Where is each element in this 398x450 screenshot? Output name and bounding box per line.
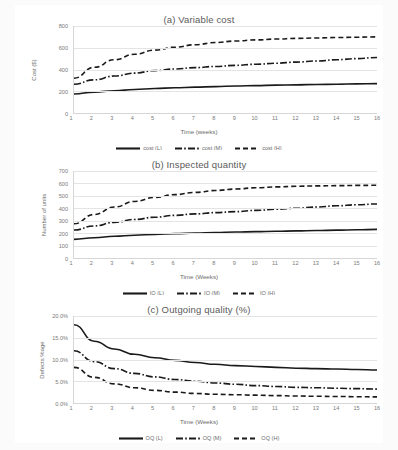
x-axis-title-c: Time (Weeks) (15, 417, 383, 426)
gridline (74, 381, 377, 382)
plot-canvas-c (73, 316, 377, 404)
x-tick-label: 7 (192, 405, 195, 411)
gridline (74, 91, 377, 92)
x-tick-label: 7 (192, 115, 195, 121)
x-tick-label: 7 (192, 260, 195, 266)
x-tick-label: 8 (212, 405, 215, 411)
x-tick-label: 6 (171, 405, 174, 411)
x-tick-label: 15 (353, 115, 359, 121)
x-tick-label: 3 (110, 115, 113, 121)
gridline (74, 246, 377, 247)
series-line (74, 58, 377, 85)
chart-title-a: (a) Variable cost (15, 5, 383, 26)
legend-c: OQ (L)OQ (M)OQ (H) (15, 432, 383, 444)
legend-swatch-dash-dot (176, 435, 200, 442)
x-axis-ticks-b: 12345678910111213141516 (71, 259, 377, 271)
gridline (74, 196, 377, 197)
y-tick-label: 15.0% (52, 335, 68, 341)
gridline (74, 316, 377, 317)
gridline (74, 221, 377, 222)
plot-area-c: Defects %age 0.0%5.0%10.0%15.0%20.0% (17, 316, 383, 404)
x-tick-label: 6 (171, 115, 174, 121)
x-tick-label: 9 (233, 405, 236, 411)
gridline (74, 338, 377, 339)
y-tick-label: 100 (59, 243, 68, 249)
y-tick-label: 600 (59, 45, 68, 51)
x-tick-label: 9 (233, 115, 236, 121)
gridline (74, 26, 377, 27)
y-tick-label: 600 (59, 181, 68, 187)
legend-label: OQ (H) (261, 435, 279, 441)
x-tick-label: 5 (151, 260, 154, 266)
x-tick-label: 13 (313, 115, 319, 121)
x-tick-label: 8 (212, 115, 215, 121)
x-tick-label: 2 (90, 260, 93, 266)
y-axis-ticks-b: 0100200300400500600700 (35, 171, 71, 259)
gridline (74, 70, 377, 71)
x-tick-label: 10 (251, 405, 257, 411)
series-line (74, 229, 377, 239)
x-tick-label: 11 (272, 260, 278, 266)
legend-item[interactable]: OQ (L) (119, 435, 163, 442)
y-tick-label: 200 (59, 89, 68, 95)
legend-label: OQ (L) (146, 435, 163, 441)
x-tick-label: 4 (131, 260, 134, 266)
x-tick-label: 9 (233, 260, 236, 266)
x-tick-label: 12 (292, 260, 298, 266)
y-tick-label: 200 (59, 231, 68, 237)
gridline (74, 208, 377, 209)
plot-canvas-a (73, 26, 377, 114)
legend-swatch-solid (119, 435, 143, 442)
gridline (74, 171, 377, 172)
legend-item[interactable]: OQ (H) (234, 435, 279, 442)
plot-area-a: Cost ($) 0200400600800 (17, 26, 383, 114)
series-line (74, 325, 377, 370)
y-axis-ticks-c: 0.0%5.0%10.0%15.0%20.0% (35, 316, 71, 404)
plot-area-b: Number of units 0100200300400500600700 (17, 171, 383, 259)
legend-swatch-dashed (234, 435, 258, 442)
x-tick-label: 14 (333, 405, 339, 411)
y-tick-label: 5.0% (55, 379, 68, 385)
x-tick-label: 5 (151, 115, 154, 121)
x-tick-label: 10 (251, 115, 257, 121)
y-axis-ticks-a: 0200400600800 (35, 26, 71, 114)
x-tick-label: 15 (353, 405, 359, 411)
x-tick-label: 4 (131, 115, 134, 121)
x-tick-label: 10 (251, 260, 257, 266)
series-line (74, 185, 377, 224)
y-tick-label: 0 (65, 256, 68, 262)
y-tick-label: 500 (59, 193, 68, 199)
x-tick-label: 14 (333, 260, 339, 266)
x-tick-label: 2 (90, 115, 93, 121)
gridline (74, 48, 377, 49)
y-tick-label: 400 (59, 206, 68, 212)
x-axis-ticks-a: 12345678910111213141516 (71, 114, 377, 126)
x-tick-label: 2 (90, 405, 93, 411)
gridline (74, 183, 377, 184)
x-tick-label: 11 (272, 405, 278, 411)
x-tick-label: 13 (313, 405, 319, 411)
x-tick-label: 1 (69, 405, 72, 411)
x-tick-label: 15 (353, 260, 359, 266)
plot-canvas-b (73, 171, 377, 259)
series-line (74, 84, 377, 94)
y-tick-label: 400 (59, 67, 68, 73)
y-tick-label: 20.0% (52, 313, 68, 319)
y-tick-label: 0 (65, 111, 68, 117)
y-tick-label: 10.0% (52, 357, 68, 363)
chart-title-c: (c) Outgoing quality (%) (15, 295, 383, 316)
series-line (74, 37, 377, 78)
x-tick-label: 1 (69, 260, 72, 266)
y-tick-label: 300 (59, 218, 68, 224)
chart-panel-outgoing-quality: (c) Outgoing quality (%) Defects %age 0.… (15, 295, 383, 443)
x-axis-title-b: Time (Weeks) (15, 272, 383, 281)
x-tick-label: 1 (69, 115, 72, 121)
figure-container: (a) Variable cost Cost ($) 0200400600800… (0, 0, 398, 450)
legend-label: OQ (M) (203, 435, 222, 441)
chart-title-b: (b) Inspected quantity (15, 150, 383, 171)
chart-panel-variable-cost: (a) Variable cost Cost ($) 0200400600800… (15, 5, 383, 150)
series-line (74, 351, 377, 389)
y-tick-label: 0.0% (55, 401, 68, 407)
x-tick-label: 5 (151, 405, 154, 411)
legend-item[interactable]: OQ (M) (176, 435, 222, 442)
